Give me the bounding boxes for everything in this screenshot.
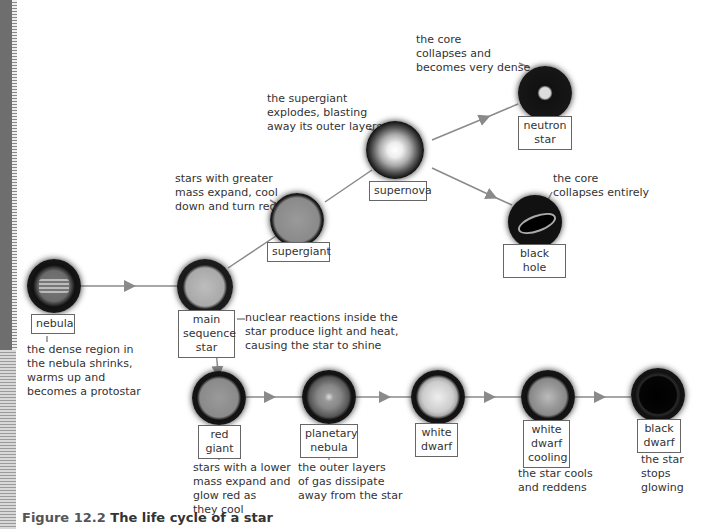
- note-neutron-star: the core collapses and becomes very dens…: [416, 33, 530, 75]
- main-sequence-star-icon: [177, 259, 233, 315]
- black-hole-icon: [508, 195, 562, 249]
- figure-caption: Figure 12.2 The life cycle of a star: [22, 510, 273, 525]
- label-supernova: supernova: [369, 181, 427, 201]
- note-black-hole: the core collapses entirely: [553, 172, 649, 200]
- label-neutron-star: neutron star: [518, 116, 572, 150]
- note-supergiant: stars with greater mass expand, cool dow…: [175, 172, 278, 214]
- note-planetary-nebula: the outer layers of gas dissipate away f…: [298, 461, 402, 503]
- label-red-giant: red giant: [198, 425, 241, 459]
- note-supernova: the supergiant explodes, blasting away i…: [267, 92, 382, 134]
- supergiant-icon: [270, 193, 324, 247]
- note-nebula: the dense region in the nebula shrinks, …: [27, 343, 141, 399]
- label-white-dwarf-cooling: white dwarf cooling: [523, 420, 570, 468]
- label-main-sequence-star: main sequence star: [178, 310, 235, 358]
- planetary-nebula-icon: [302, 370, 356, 424]
- label-planetary-nebula: planetary nebula: [300, 424, 358, 458]
- note-red-giant: stars with a lower mass expand and glow …: [193, 461, 291, 517]
- nebula-icon: [27, 259, 81, 313]
- label-white-dwarf: white dwarf: [415, 423, 458, 457]
- note-white-dwarf-cooling: the star cools and reddens: [518, 467, 593, 495]
- figure-title: The life cycle of a star: [110, 510, 273, 525]
- note-main-sequence-star: nuclear reactions inside the star produc…: [245, 311, 398, 353]
- red-giant-icon: [192, 371, 246, 425]
- label-nebula: nebula: [31, 314, 75, 334]
- figure-number: Figure 12.2: [22, 510, 106, 525]
- black-dwarf-icon: [631, 368, 685, 422]
- label-black-hole: black hole: [503, 244, 566, 278]
- label-black-dwarf: black dwarf: [637, 419, 681, 453]
- label-supergiant: supergiant: [267, 242, 330, 262]
- note-black-dwarf: the star stops glowing: [641, 453, 702, 495]
- white-dwarf-cooling-icon: [521, 370, 575, 424]
- white-dwarf-icon: [411, 370, 465, 424]
